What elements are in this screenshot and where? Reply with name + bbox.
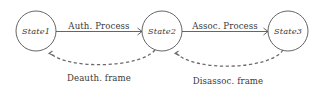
deauth-frame-arrowhead: [49, 51, 54, 56]
node-state1[interactable]: State1: [16, 11, 56, 51]
deauth-frame-label: Deauth. frame: [67, 73, 131, 83]
edge-auth-process: Auth. Process: [56, 21, 142, 36]
node-state3[interactable]: State3: [268, 11, 308, 51]
disassoc-frame-label: Disassoc. frame: [193, 76, 264, 86]
assoc-process-label: Assoc. Process: [191, 21, 258, 31]
state1-label: State1: [22, 26, 50, 36]
deauth-frame-curve: [50, 50, 155, 65]
disassoc-frame-curve: [176, 50, 283, 66]
state2-label: State2: [148, 26, 176, 36]
edge-disassoc-frame: Disassoc. frame: [175, 50, 283, 86]
disassoc-frame-arrowhead: [175, 51, 180, 56]
diagram-canvas: Auth. Process Assoc. Process Deauth. fra…: [0, 0, 320, 91]
state-diagram: Auth. Process Assoc. Process Deauth. fra…: [0, 0, 320, 91]
state3-label: State3: [274, 26, 302, 36]
edge-deauth-frame: Deauth. frame: [49, 50, 155, 83]
auth-process-label: Auth. Process: [67, 21, 129, 31]
edge-assoc-process: Assoc. Process: [182, 21, 268, 36]
node-state2[interactable]: State2: [142, 11, 182, 51]
